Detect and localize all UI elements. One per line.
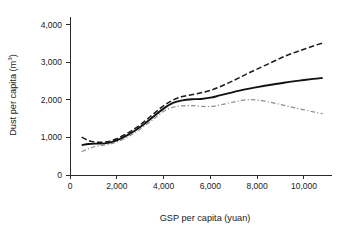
chart-figure: 01,0002,0003,0004,000 02,0004,0006,0008,…	[0, 0, 340, 230]
data-series-group	[82, 43, 323, 152]
y-axis-tick-labels: 01,0002,0003,0004,000	[41, 20, 63, 180]
x-tick-label: 6,000	[200, 181, 222, 191]
line-chart: 01,0002,0003,0004,000 02,0004,0006,0008,…	[0, 0, 340, 230]
y-tick-label: 1,000	[41, 132, 63, 142]
y-tick-label: 3,000	[41, 57, 63, 67]
x-axis-title: GSP per capita (yuan)	[160, 213, 251, 223]
y-axis-title-close: )	[8, 54, 18, 57]
y-tick-label: 0	[57, 170, 62, 180]
data-series-line-1	[82, 78, 323, 145]
x-tick-label: 2,000	[106, 181, 128, 191]
x-tick-label: 4,000	[153, 181, 175, 191]
data-series-line-0	[82, 43, 323, 142]
y-axis-title-base: Dust per capita (m	[8, 60, 18, 135]
x-axis-tick-labels: 02,0004,0006,0008,00010,000	[68, 181, 318, 191]
y-tick-label: 4,000	[41, 20, 63, 30]
data-series-line-2	[82, 100, 323, 152]
x-tick-label: 0	[68, 181, 73, 191]
y-tick-label: 2,000	[41, 95, 63, 105]
x-tick-label: 10,000	[291, 181, 317, 191]
y-axis-ticks	[66, 25, 70, 175]
y-axis-title: Dust per capita (m3)	[6, 54, 18, 136]
x-tick-label: 8,000	[247, 181, 269, 191]
